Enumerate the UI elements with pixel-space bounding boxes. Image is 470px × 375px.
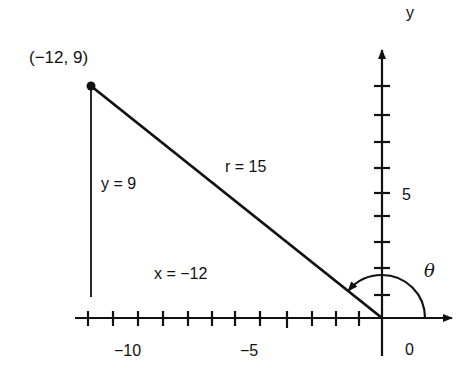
y-axis [374,50,390,356]
x-axis-ticks [88,311,359,328]
point-marker [87,82,96,91]
y-axis-label: y [406,5,414,21]
theta-label: θ [424,262,435,280]
angle-arc [349,275,425,318]
hypotenuse-label: r = 15 [225,159,266,175]
point-label: (−12, 9) [29,49,88,66]
x-tick-label-minus5: −5 [240,343,258,359]
hypotenuse-r [91,86,382,318]
origin-label: 0 [405,342,414,358]
adjacent-label: x = −12 [154,266,207,282]
y-tick-label-5: 5 [402,187,411,203]
x-tick-label-minus10: −10 [114,343,141,359]
opposite-label: y = 9 [101,176,136,192]
x-axis [75,311,452,328]
